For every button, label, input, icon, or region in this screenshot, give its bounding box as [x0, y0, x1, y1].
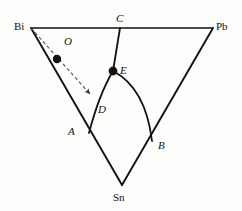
diagram-canvas [0, 0, 242, 211]
point-marker-o [53, 55, 61, 63]
point-marker-e [109, 67, 118, 76]
point-label-c: C [116, 13, 123, 24]
vertex-label-pb: Pb [216, 21, 228, 32]
edge-bi-sn [31, 28, 122, 185]
vertex-label-bi: Bi [14, 21, 24, 32]
point-label-o: O [64, 36, 72, 47]
point-label-a: A [68, 126, 75, 137]
line-c-to-e [113, 28, 120, 71]
curve-e-to-b [113, 71, 152, 141]
vertex-label-sn: Sn [113, 192, 125, 203]
ternary-phase-diagram-figure: Bi Pb Sn C O E D A B [0, 0, 242, 211]
point-label-b: B [158, 140, 165, 151]
curve-e-to-a [89, 71, 113, 133]
point-label-e: E [120, 65, 127, 76]
point-label-d: D [98, 104, 106, 115]
edge-pb-sn [122, 28, 213, 185]
